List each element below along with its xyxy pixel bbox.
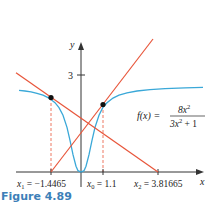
figure-caption: Figure 4.89: [1, 190, 72, 203]
y-axis-label: y: [69, 39, 75, 50]
function-label: f(x) =: [137, 110, 160, 122]
x2-label: x2 = 3.81665: [133, 179, 183, 190]
point-x0: [100, 102, 105, 107]
x0-label: x0 = 1.1: [86, 179, 117, 190]
y-axis-arrow-icon: [78, 42, 84, 50]
point-x1: [48, 95, 53, 100]
function-denominator: 3x2 + 1: [169, 117, 197, 129]
function-curve: [19, 87, 203, 172]
function-numerator: 8x2: [178, 103, 190, 115]
y-tick-label-3: 3: [68, 70, 73, 81]
x-axis-arrow-icon: [196, 169, 204, 175]
x1-label: x1 = −1.4465: [16, 179, 66, 190]
x-axis-label: x: [199, 176, 205, 187]
tangent-line-x1: [16, 73, 158, 172]
newton-method-figure: y x 3 f(x) = 8x2 3x2 + 1 x1 = −1.4465 x0…: [0, 0, 215, 207]
